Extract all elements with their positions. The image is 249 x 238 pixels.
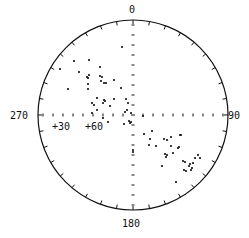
data-points <box>59 46 201 183</box>
rim-tick <box>117 21 118 25</box>
data-point <box>100 80 102 82</box>
data-point <box>183 169 185 171</box>
data-point <box>166 154 168 156</box>
data-point <box>109 105 111 107</box>
data-point <box>178 146 180 148</box>
data-point <box>99 66 101 68</box>
label-radial-60: +60 <box>85 121 103 132</box>
data-point <box>170 136 172 138</box>
data-point <box>148 144 150 146</box>
data-point <box>126 109 128 111</box>
data-point <box>104 100 106 102</box>
data-point <box>191 167 193 169</box>
data-point <box>129 122 131 124</box>
data-point <box>180 134 182 136</box>
data-point <box>93 104 95 106</box>
rim-tick <box>117 205 118 209</box>
data-point <box>87 83 89 85</box>
data-point <box>165 156 167 158</box>
axis-ticks <box>43 25 223 205</box>
rim-tick <box>149 205 150 209</box>
data-point <box>103 82 105 84</box>
data-point <box>91 102 93 104</box>
data-point <box>125 98 127 100</box>
data-point <box>96 97 98 99</box>
rim-tick <box>223 99 227 100</box>
data-point <box>189 163 191 165</box>
data-point <box>123 123 125 125</box>
data-point <box>99 75 101 77</box>
data-point <box>143 133 145 135</box>
data-point <box>166 139 168 141</box>
data-point <box>107 121 109 123</box>
data-point <box>128 120 130 122</box>
data-point <box>88 59 90 61</box>
rim-tick <box>101 201 102 205</box>
data-point <box>194 157 196 159</box>
rim-tick <box>212 161 215 163</box>
stereonet-plot: 0 180 270 90 +30 +60 <box>0 0 249 238</box>
data-point <box>91 112 93 114</box>
data-point <box>151 130 153 132</box>
data-point <box>170 145 172 147</box>
data-point <box>161 165 163 167</box>
data-point <box>197 154 199 156</box>
rim-tick <box>44 83 48 84</box>
data-point <box>113 79 115 81</box>
data-point <box>155 145 157 147</box>
data-point <box>175 181 177 183</box>
rim-tick <box>203 54 206 57</box>
data-point <box>182 160 184 162</box>
data-point <box>132 149 134 151</box>
data-point <box>96 109 98 111</box>
rim-tick <box>149 21 150 25</box>
rim-tick <box>51 161 54 163</box>
rim-tick <box>191 42 194 45</box>
data-point <box>130 112 132 114</box>
rim-tick <box>60 54 63 57</box>
rim-tick <box>164 26 165 30</box>
label-west: 270 <box>10 110 28 121</box>
data-point <box>185 170 187 172</box>
rim-tick <box>39 99 43 100</box>
data-point <box>149 138 151 140</box>
label-north: 0 <box>129 4 135 15</box>
rim-tick <box>203 173 206 176</box>
data-point <box>102 102 104 104</box>
rim-tick <box>179 194 181 197</box>
data-point <box>164 153 166 155</box>
data-point <box>102 117 104 119</box>
data-point <box>190 169 192 171</box>
rim-tick <box>223 131 227 132</box>
data-point <box>87 88 89 90</box>
rim-tick <box>72 185 75 188</box>
data-point <box>163 138 165 140</box>
data-point <box>192 162 194 164</box>
data-point <box>73 60 75 62</box>
rim-tick <box>179 33 181 36</box>
rim-tick <box>219 146 223 147</box>
rim-tick <box>164 201 165 205</box>
rim-tick <box>60 173 63 176</box>
data-point <box>88 74 90 76</box>
data-point <box>59 68 61 70</box>
rim-tick <box>212 68 215 70</box>
rim-tick <box>86 194 88 197</box>
data-point <box>184 161 186 163</box>
rim-tick <box>101 26 102 30</box>
label-south: 180 <box>122 218 140 229</box>
data-point <box>120 87 122 89</box>
data-point <box>132 151 134 153</box>
data-point <box>124 111 126 113</box>
rim-tick <box>51 68 54 70</box>
data-point <box>87 77 89 79</box>
rim-tick <box>86 33 88 36</box>
data-point <box>121 46 123 48</box>
data-point <box>127 102 129 104</box>
data-point <box>101 76 103 78</box>
data-point <box>188 165 190 167</box>
data-point <box>113 98 115 100</box>
label-east: 90 <box>228 110 240 121</box>
rim-tick <box>219 83 223 84</box>
rim-tick <box>191 185 194 188</box>
